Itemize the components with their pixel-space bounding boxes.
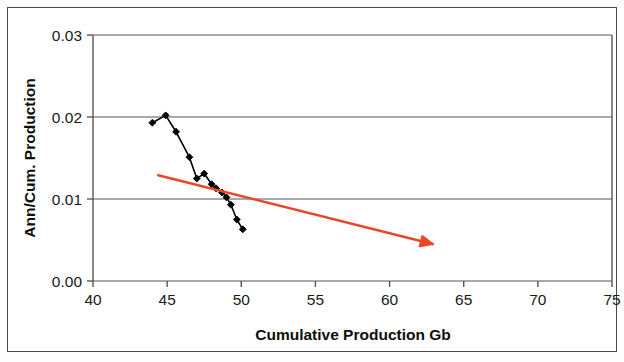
x-tick-label-6: 70 (529, 291, 547, 308)
gridlines-group (93, 35, 612, 281)
tick-marks-group (87, 35, 612, 287)
annotations-group (158, 175, 432, 246)
data-point-marker (149, 119, 156, 126)
y-tick-label-0: 0.00 (52, 273, 83, 290)
x-tick-label-5: 65 (455, 291, 472, 308)
series-line-0 (152, 115, 242, 229)
axes-group (93, 35, 612, 281)
x-tick-label-2: 50 (233, 291, 251, 308)
y-tick-label-2: 0.02 (52, 109, 82, 126)
x-tick-label-1: 45 (159, 291, 176, 308)
x-tick-label-4: 60 (381, 291, 399, 308)
x-axis-title: Cumulative Production Gb (255, 326, 450, 343)
data-series-group (149, 112, 246, 233)
trend-arrow-shaft (158, 175, 432, 244)
x-tick-label-0: 40 (84, 291, 102, 308)
data-point-marker (186, 154, 193, 161)
data-point-marker (233, 216, 240, 223)
x-tick-label-3: 55 (307, 291, 324, 308)
x-axis-tick-labels: 4045505560657075 (84, 291, 620, 308)
y-axis-title: Ann/Cum. Production (21, 78, 38, 237)
chart-canvas: 0.000.010.020.03 4045505560657075 Cumula… (0, 0, 624, 362)
x-tick-label-7: 75 (603, 291, 620, 308)
y-axis-tick-labels: 0.000.010.020.03 (52, 27, 83, 290)
y-tick-label-1: 0.01 (52, 191, 82, 208)
y-tick-label-3: 0.03 (52, 27, 82, 44)
trend-arrow-head (420, 236, 433, 246)
chart-figure: 0.000.010.020.03 4045505560657075 Cumula… (0, 0, 624, 362)
data-point-marker (239, 226, 246, 233)
data-point-marker (228, 201, 235, 208)
